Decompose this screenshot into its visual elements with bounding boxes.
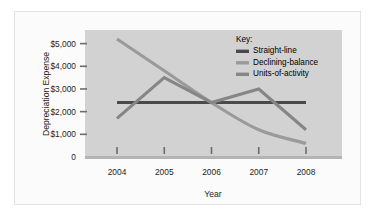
legend-title: Key:: [236, 35, 252, 44]
x-axis-tick-mark: [116, 147, 118, 154]
y-axis-tick-mark: [80, 65, 87, 67]
x-axis-tick-label: 2005: [155, 167, 174, 177]
plot-area-background: [85, 30, 342, 158]
y-axis-tick-mark: [80, 43, 87, 45]
legend-swatch: [236, 61, 249, 64]
y-axis-tick-label: $1,000: [50, 129, 76, 139]
y-axis-tick-label: $3,000: [50, 84, 76, 94]
x-axis-tick-label: 2004: [108, 167, 127, 177]
x-axis-tick-mark: [211, 147, 213, 154]
x-axis-tick-mark: [163, 147, 165, 154]
x-axis-tick-mark: [305, 147, 307, 154]
y-axis-tick-labels: 0$1,000$2,000$3,000$4,000$5,000: [50, 39, 76, 162]
depreciation-expense-line-chart: 0$1,000$2,000$3,000$4,000$5,000 20042005…: [0, 0, 375, 216]
y-axis-tick-label: $2,000: [50, 107, 76, 117]
legend-item-label: Units-of-activity: [253, 69, 310, 78]
y-axis-tick-label: 0: [71, 152, 76, 162]
y-axis-tick-mark: [80, 134, 87, 136]
x-axis-title: Year: [204, 189, 222, 199]
x-axis-tick-label: 2008: [297, 167, 316, 177]
x-axis-line: [85, 156, 342, 159]
y-axis-tick-mark: [80, 88, 87, 90]
legend-swatch: [236, 50, 249, 53]
y-axis-tick-label: $5,000: [50, 39, 76, 49]
y-axis-tick-label: $4,000: [50, 61, 76, 71]
y-axis-title: Depreciation Expense: [41, 52, 51, 136]
legend-item-label: Straight-line: [253, 46, 297, 55]
legend-swatch: [236, 73, 249, 76]
legend-item-label: Declining-balance: [253, 58, 319, 67]
x-axis-tick-label: 2006: [202, 167, 221, 177]
x-axis-tick-label: 2007: [249, 167, 268, 177]
chart-figure: 0$1,000$2,000$3,000$4,000$5,000 20042005…: [0, 0, 375, 216]
x-axis-tick-labels: 20042005200620072008: [108, 167, 316, 177]
x-axis-tick-mark: [258, 147, 260, 154]
y-axis-tick-mark: [80, 111, 87, 113]
